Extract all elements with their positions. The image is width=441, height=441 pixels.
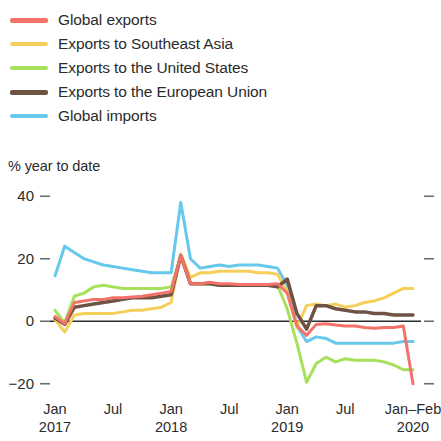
x-tick-month: Jul: [336, 401, 355, 417]
legend-label-exports-southeast-asia: Exports to Southeast Asia: [58, 36, 233, 52]
plot-area: 40200−20: [0, 182, 436, 400]
x-tick-label: Jan–Feb2020: [385, 400, 441, 436]
legend-item-exports-european-union: Exports to the European Union: [10, 80, 430, 104]
x-axis: Jan2017JulJan2018JulJan2019JulJan–Feb202…: [0, 398, 436, 441]
x-tick-year: 2019: [271, 418, 303, 436]
x-tick-label: Jan2017: [39, 400, 71, 436]
x-tick-year: 2020: [385, 418, 441, 436]
x-tick-month: Jan: [276, 401, 299, 417]
x-tick-label: Jan2019: [271, 400, 303, 436]
legend-label-exports-european-union: Exports to the European Union: [58, 84, 267, 100]
legend-swatch-global-imports: [10, 114, 48, 118]
x-tick-month: Jul: [104, 401, 123, 417]
y-tick-label: −20: [2, 375, 34, 392]
y-tick-label: 0: [2, 312, 34, 329]
series-line-exports-to-the-united-states: [55, 256, 413, 383]
x-tick-year: 2018: [155, 418, 187, 436]
x-tick-label: Jul: [336, 400, 355, 418]
series-line-global-exports: [55, 256, 413, 384]
chart-svg: [0, 182, 436, 400]
x-tick-month: Jul: [220, 401, 239, 417]
legend-label-global-exports: Global exports: [58, 12, 157, 28]
legend-label-exports-united-states: Exports to the United States: [58, 60, 248, 76]
x-tick-month: Jan: [43, 401, 66, 417]
series-line-global-imports: [55, 203, 413, 344]
legend-swatch-exports-southeast-asia: [10, 42, 48, 46]
legend-swatch-exports-united-states: [10, 66, 48, 70]
legend-item-global-imports: Global imports: [10, 104, 430, 128]
y-tick-label: 20: [2, 250, 34, 267]
y-axis-caption: % year to date: [8, 158, 100, 174]
legend-swatch-global-exports: [10, 18, 48, 23]
legend-label-global-imports: Global imports: [58, 108, 157, 124]
x-tick-label: Jul: [104, 400, 123, 418]
legend-item-exports-southeast-asia: Exports to Southeast Asia: [10, 32, 430, 56]
x-tick-month: Jan–Feb: [385, 401, 441, 417]
legend-item-exports-united-states: Exports to the United States: [10, 56, 430, 80]
x-tick-label: Jul: [220, 400, 239, 418]
chart-legend: Global exports Exports to Southeast Asia…: [10, 8, 430, 128]
x-tick-label: Jan2018: [155, 400, 187, 436]
legend-item-global-exports: Global exports: [10, 8, 430, 32]
x-tick-month: Jan: [159, 401, 182, 417]
x-tick-year: 2017: [39, 418, 71, 436]
y-tick-label: 40: [2, 187, 34, 204]
legend-swatch-exports-european-union: [10, 90, 48, 95]
